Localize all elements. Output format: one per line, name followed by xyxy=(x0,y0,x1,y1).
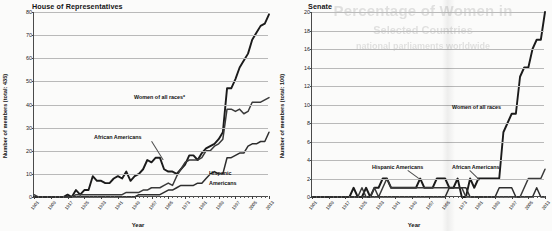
x-tick-mark xyxy=(329,196,330,199)
x-tick-mark xyxy=(252,196,253,199)
x-tick-mark-minor xyxy=(503,196,504,198)
plot-area-senate: 0246810121416182019011909191719251933194… xyxy=(311,12,544,197)
x-tick-mark xyxy=(185,196,186,199)
chart-title-house: House of Representatives xyxy=(32,2,123,11)
x-tick-mark-minor xyxy=(453,196,454,198)
y-tick-label: 10 xyxy=(26,171,32,177)
x-tick-label: 1949 xyxy=(408,200,418,211)
x-tick-mark xyxy=(379,196,380,199)
x-tick-mark xyxy=(34,196,35,199)
x-tick-label: 1997 xyxy=(508,200,518,211)
x-tick-mark-minor xyxy=(487,196,488,198)
y-tick-label: 10 xyxy=(304,102,310,108)
x-tick-mark-minor xyxy=(441,196,442,198)
x-tick-mark xyxy=(101,196,102,199)
x-tick-mark-minor xyxy=(72,196,73,198)
y-tick-label: 40 xyxy=(26,102,32,108)
y-tick-label: 80 xyxy=(26,9,32,15)
y-tick-mark xyxy=(310,142,312,143)
x-tick-mark xyxy=(219,196,220,199)
x-tick-mark-minor xyxy=(231,196,232,198)
series-line-women-of-all-races xyxy=(34,14,269,197)
x-tick-mark-minor xyxy=(437,196,438,198)
x-tick-mark-minor xyxy=(47,196,48,198)
x-tick-mark-minor xyxy=(354,196,355,198)
x-tick-label: 1973 xyxy=(458,200,468,211)
x-tick-label: 1933 xyxy=(97,200,107,211)
x-tick-mark-minor xyxy=(76,196,77,198)
x-tick-mark xyxy=(312,196,313,199)
y-tick-label: 0 xyxy=(307,194,310,200)
y-tick-mark xyxy=(32,128,34,129)
x-tick-mark-minor xyxy=(320,196,321,198)
x-tick-label: 1981 xyxy=(198,200,208,211)
x-tick-mark-minor xyxy=(93,196,94,198)
annotation-hispanic-americans-line1: Hispanic xyxy=(209,170,231,176)
x-tick-mark-minor xyxy=(316,196,317,198)
y-tick-mark xyxy=(310,179,312,180)
gridline xyxy=(312,160,544,161)
x-tick-mark xyxy=(528,196,529,199)
gridline xyxy=(34,174,268,175)
x-tick-label: 1917 xyxy=(341,200,351,211)
gridline xyxy=(312,68,544,69)
x-tick-mark-minor xyxy=(516,196,517,198)
gridline xyxy=(312,31,544,32)
chart-panel-house: House of Representatives Number of membe… xyxy=(0,0,276,231)
y-tick-mark xyxy=(310,68,312,69)
x-tick-mark xyxy=(118,196,119,199)
gridline xyxy=(312,49,544,50)
y-tick-label: 6 xyxy=(307,139,310,145)
x-tick-mark-minor xyxy=(80,196,81,198)
x-tick-mark xyxy=(429,196,430,199)
scanned-page: Percentage of Women in Selected Countrie… xyxy=(0,0,552,231)
x-tick-mark-minor xyxy=(55,196,56,198)
x-tick-mark xyxy=(345,196,346,199)
x-tick-label: 1941 xyxy=(114,200,124,211)
y-tick-label: 18 xyxy=(304,28,310,34)
y-tick-label: 8 xyxy=(307,120,310,126)
x-tick-mark-minor xyxy=(508,196,509,198)
x-tick-mark-minor xyxy=(420,196,421,198)
x-tick-mark-minor xyxy=(206,196,207,198)
gridline xyxy=(34,128,268,129)
y-tick-mark xyxy=(32,12,34,13)
x-tick-mark xyxy=(395,196,396,199)
x-tick-mark-minor xyxy=(383,196,384,198)
x-tick-mark-minor xyxy=(240,196,241,198)
x-tick-mark xyxy=(168,196,169,199)
x-tick-mark-minor xyxy=(541,196,542,198)
x-tick-mark-minor xyxy=(349,196,350,198)
y-tick-mark xyxy=(310,12,312,13)
x-tick-mark-minor xyxy=(374,196,375,198)
x-tick-mark-minor xyxy=(537,196,538,198)
x-tick-mark xyxy=(478,196,479,199)
x-tick-label: 2013 xyxy=(265,200,275,211)
x-tick-mark xyxy=(135,196,136,199)
y-tick-mark xyxy=(310,86,312,87)
x-tick-mark-minor xyxy=(143,196,144,198)
x-tick-mark-minor xyxy=(181,196,182,198)
x-tick-mark-minor xyxy=(156,196,157,198)
x-tick-mark xyxy=(84,196,85,199)
y-tick-mark xyxy=(32,35,34,36)
x-tick-mark xyxy=(445,196,446,199)
x-axis-label-house: Year xyxy=(0,222,276,228)
x-tick-mark-minor xyxy=(520,196,521,198)
y-tick-mark xyxy=(310,160,312,161)
x-tick-mark-minor xyxy=(89,196,90,198)
gridline xyxy=(34,12,268,13)
x-tick-mark-minor xyxy=(214,196,215,198)
y-tick-label: 4 xyxy=(307,157,310,163)
x-tick-mark-minor xyxy=(110,196,111,198)
x-tick-mark-minor xyxy=(63,196,64,198)
x-tick-mark-minor xyxy=(227,196,228,198)
annotation-hispanic-americans: Hispanic Americans xyxy=(372,164,423,170)
x-tick-mark-minor xyxy=(42,196,43,198)
x-tick-mark-minor xyxy=(433,196,434,198)
x-tick-label: 1957 xyxy=(424,200,434,211)
x-tick-mark-minor xyxy=(387,196,388,198)
gridline xyxy=(312,86,544,87)
x-tick-mark-minor xyxy=(265,196,266,198)
x-tick-mark-minor xyxy=(223,196,224,198)
